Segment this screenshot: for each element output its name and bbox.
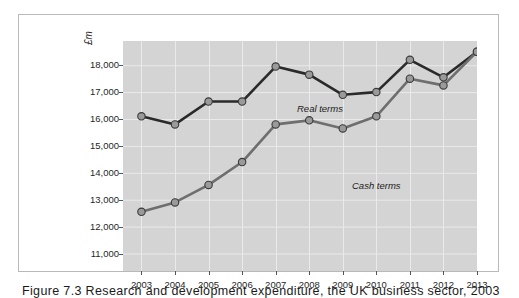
y-axis-tick-label: 14,000 bbox=[73, 167, 119, 178]
y-axis-tick-label: 15,000 bbox=[73, 140, 119, 151]
x-axis-tick-mark bbox=[410, 271, 411, 275]
plot-area: Real terms Cash terms bbox=[123, 41, 477, 271]
x-axis-tick-mark bbox=[443, 271, 444, 275]
y-axis-tick-label: 11,000 bbox=[73, 248, 119, 259]
figure-panel: £m 18,00017,00016,00015,00014,00013,0001… bbox=[18, 14, 499, 272]
x-axis-tick-mark bbox=[175, 271, 176, 275]
y-axis-tick-label: 13,000 bbox=[73, 194, 119, 205]
figure-caption: Figure 7.3 Research and development expe… bbox=[22, 284, 500, 298]
y-axis-tick-label: 16,000 bbox=[73, 113, 119, 124]
y-axis-tick-label: 18,000 bbox=[73, 59, 119, 70]
x-axis-tick-mark bbox=[343, 271, 344, 275]
x-axis-tick-mark bbox=[209, 271, 210, 275]
x-axis-tick-mark bbox=[242, 271, 243, 275]
series-annotation-cash-terms: Cash terms bbox=[352, 180, 401, 191]
y-axis-tick-labels: 18,00017,00016,00015,00014,00013,00012,0… bbox=[69, 15, 119, 273]
chart-svg bbox=[123, 41, 477, 271]
x-axis-tick-mark bbox=[376, 271, 377, 275]
y-axis-tick-label: 17,000 bbox=[73, 86, 119, 97]
x-axis-tick-mark bbox=[309, 271, 310, 275]
series-annotation-real-terms: Real terms bbox=[297, 103, 343, 114]
x-axis-tick-mark bbox=[141, 271, 142, 275]
y-axis-tick-label: 12,000 bbox=[73, 221, 119, 232]
x-axis-tick-mark bbox=[477, 271, 478, 275]
x-axis-tick-mark bbox=[276, 271, 277, 275]
